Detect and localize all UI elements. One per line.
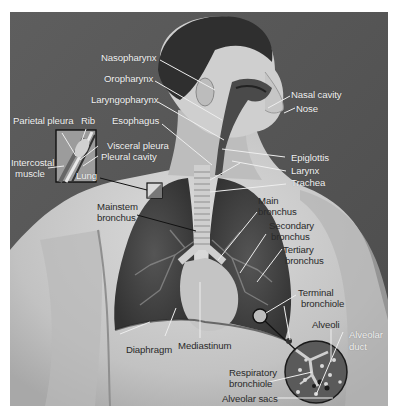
label-esophagus: Esophagus bbox=[112, 115, 159, 126]
bronchiole-marker bbox=[253, 309, 267, 323]
label-larynx: Larynx bbox=[291, 165, 319, 176]
label-epiglottis: Epiglottis bbox=[291, 152, 329, 163]
label-mainstem-bronchus-line2: bronchus bbox=[97, 212, 136, 223]
label-nasal-cavity: Nasal cavity bbox=[291, 89, 342, 100]
label-respiratory-bronchiole-line2: bronchiole bbox=[229, 378, 272, 389]
label-secondary-bronchus-line1: Secondary bbox=[269, 220, 314, 231]
respiratory-anatomy-figure: Nasopharynx Oropharynx Laryngopharynx Es… bbox=[0, 0, 396, 416]
label-nasopharynx: Nasopharynx bbox=[101, 52, 156, 63]
label-intercostal-muscle-line2: muscle bbox=[15, 168, 45, 179]
label-secondary-bronchus-line2: bronchus bbox=[271, 231, 310, 242]
label-alveolar-sacs: Alveolar sacs bbox=[222, 393, 278, 404]
label-tertiary-bronchus-line2: bronchus bbox=[285, 255, 324, 266]
label-mediastinum: Mediastinum bbox=[178, 340, 231, 351]
label-trachea: Trachea bbox=[291, 177, 325, 188]
label-alveolar-duct-line1: Alveolar bbox=[349, 329, 383, 340]
label-tertiary-bronchus-line1: Tertiary bbox=[283, 244, 314, 255]
label-pleural-cavity: Pleural cavity bbox=[101, 151, 157, 162]
label-nose: Nose bbox=[296, 103, 318, 114]
label-lung: Lung bbox=[76, 170, 97, 181]
label-rib: Rib bbox=[81, 115, 95, 126]
label-laryngopharynx: Laryngopharynx bbox=[91, 94, 158, 105]
label-parietal-pleura: Parietal pleura bbox=[13, 115, 73, 126]
label-mainstem-bronchus-line1: Mainstem bbox=[97, 201, 138, 212]
anatomy-illustration bbox=[0, 0, 396, 416]
label-main-bronchus-line1: Main bbox=[258, 195, 278, 206]
label-intercostal-muscle-line1: Intercostal bbox=[11, 157, 54, 168]
label-visceral-pleura: Visceral pleura bbox=[107, 140, 169, 151]
label-terminal-bronchiole-line2: bronchiole bbox=[301, 298, 344, 309]
label-diaphragm: Diaphragm bbox=[126, 344, 172, 355]
label-oropharynx: Oropharynx bbox=[104, 73, 153, 84]
label-terminal-bronchiole-line1: Terminal bbox=[298, 287, 333, 298]
label-alveolar-duct-line2: duct bbox=[349, 341, 367, 352]
label-main-bronchus-line2: bronchus bbox=[258, 206, 297, 217]
label-alveoli: Alveoli bbox=[312, 319, 340, 330]
label-respiratory-bronchiole-line1: Respiratory bbox=[229, 367, 277, 378]
